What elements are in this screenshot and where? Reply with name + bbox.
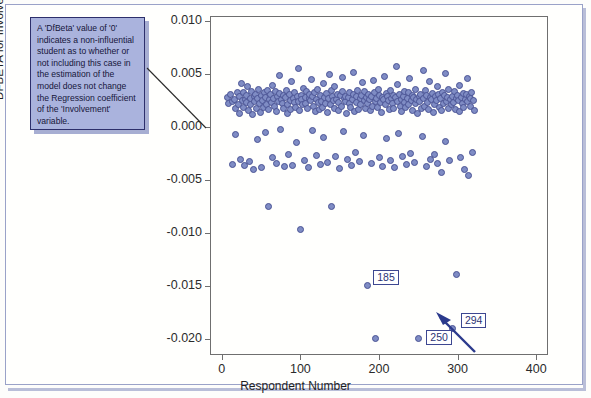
scatter-point[interactable]	[320, 80, 327, 87]
scatter-point[interactable]	[254, 136, 261, 143]
scatter-point[interactable]	[273, 160, 280, 167]
scatter-point[interactable]	[394, 81, 401, 88]
scatter-point[interactable]	[281, 163, 288, 170]
scatter-point[interactable]	[265, 203, 272, 210]
x-axis-tick	[300, 355, 301, 360]
scatter-point[interactable]	[262, 129, 269, 136]
scatter-point[interactable]	[356, 158, 363, 165]
scatter-point[interactable]	[393, 63, 400, 70]
scatter-point[interactable]	[324, 109, 331, 116]
scatter-point[interactable]	[368, 160, 375, 167]
scatter-point[interactable]	[407, 150, 414, 157]
scatter-point[interactable]	[383, 135, 390, 142]
scatter-point[interactable]	[403, 161, 410, 168]
scatter-point[interactable]	[434, 160, 441, 167]
x-axis-tick-label: 100	[290, 362, 311, 376]
x-axis-title: Respondent Number	[0, 379, 591, 393]
scatter-point[interactable]	[348, 162, 355, 169]
scatter-point[interactable]	[465, 172, 472, 179]
scatter-point[interactable]	[471, 107, 478, 114]
scatter-point[interactable]	[250, 166, 257, 173]
scatter-point[interactable]	[381, 73, 388, 80]
scatter-point[interactable]	[340, 128, 347, 135]
scatter-point[interactable]	[419, 133, 426, 140]
scatter-point[interactable]	[328, 203, 335, 210]
scatter-plot-area[interactable]	[210, 16, 548, 355]
scatter-point[interactable]	[232, 131, 239, 138]
scatter-point[interactable]	[379, 163, 386, 170]
y-axis-tick-label: -0.010	[2, 225, 202, 239]
scatter-point[interactable]	[313, 152, 320, 159]
scatter-point[interactable]	[406, 75, 413, 82]
scatter-point[interactable]	[431, 151, 438, 158]
scatter-point[interactable]	[229, 161, 236, 168]
scatter-point[interactable]	[446, 157, 453, 164]
scatter-point[interactable]	[339, 74, 346, 81]
scatter-point[interactable]	[276, 72, 283, 79]
scatter-point[interactable]	[249, 111, 256, 118]
scatter-point[interactable]	[372, 335, 379, 342]
scatter-point[interactable]	[442, 138, 449, 145]
scatter-point[interactable]	[285, 151, 292, 158]
scatter-point[interactable]	[399, 153, 406, 160]
scatter-point[interactable]	[391, 164, 398, 171]
scatter-point[interactable]	[378, 109, 385, 116]
y-axis-tick-label: -0.015	[2, 278, 202, 292]
annotation-box: A 'DfBeta' value of '0' indicates a non-…	[30, 17, 145, 130]
scatter-point[interactable]	[426, 78, 433, 85]
scatter-point[interactable]	[289, 162, 296, 169]
scatter-point[interactable]	[464, 75, 471, 82]
data-point-label-250: 250	[426, 330, 452, 345]
scatter-point[interactable]	[332, 153, 339, 160]
scatter-point[interactable]	[364, 282, 371, 289]
scatter-point[interactable]	[438, 169, 445, 176]
scatter-point[interactable]	[370, 77, 377, 84]
scatter-point[interactable]	[360, 132, 367, 139]
scatter-point[interactable]	[258, 164, 265, 171]
scatter-point[interactable]	[457, 154, 464, 161]
x-axis-tick	[379, 355, 380, 360]
scatter-point[interactable]	[326, 71, 333, 78]
scatter-point[interactable]	[336, 165, 343, 172]
scatter-point[interactable]	[305, 164, 312, 171]
scatter-point[interactable]	[411, 159, 418, 166]
scatter-point[interactable]	[317, 161, 324, 168]
x-axis-tick	[458, 355, 459, 360]
scatter-point[interactable]	[376, 154, 383, 161]
scatter-point[interactable]	[420, 67, 427, 74]
scatter-point[interactable]	[430, 109, 437, 116]
scatter-point[interactable]	[423, 163, 430, 170]
screenshot-page: -0.020-0.015-0.010-0.0050.0000.0050.0100…	[0, 0, 591, 398]
scatter-point[interactable]	[277, 126, 284, 133]
scatter-point[interactable]	[331, 83, 338, 90]
scatter-point[interactable]	[308, 76, 315, 83]
scatter-point[interactable]	[395, 130, 402, 137]
scatter-point[interactable]	[273, 108, 280, 115]
scatter-point[interactable]	[246, 158, 253, 165]
scatter-point[interactable]	[359, 79, 366, 86]
scatter-point[interactable]	[469, 149, 476, 156]
scatter-point[interactable]	[352, 149, 359, 156]
scatter-point[interactable]	[295, 65, 302, 72]
scatter-point[interactable]	[343, 110, 350, 117]
scatter-point[interactable]	[442, 70, 449, 77]
scatter-point[interactable]	[415, 335, 422, 342]
scatter-point[interactable]	[324, 159, 331, 166]
scatter-point[interactable]	[309, 127, 316, 134]
scatter-point[interactable]	[468, 89, 475, 96]
scatter-point[interactable]	[456, 82, 463, 89]
scatter-point[interactable]	[453, 271, 460, 278]
x-axis-tick-label: 200	[369, 362, 390, 376]
scatter-point[interactable]	[320, 134, 327, 141]
scatter-point[interactable]	[387, 157, 394, 164]
scatter-point[interactable]	[297, 226, 304, 233]
scatter-point[interactable]	[350, 69, 357, 76]
scatter-point[interactable]	[236, 110, 243, 117]
scatter-point[interactable]	[470, 97, 477, 104]
scatter-point[interactable]	[288, 78, 295, 85]
scatter-point[interactable]	[438, 107, 445, 114]
scatter-point[interactable]	[293, 139, 300, 146]
outer-border-shadow-right	[583, 8, 586, 390]
scatter-point[interactable]	[301, 157, 308, 164]
x-axis-tick	[536, 355, 537, 360]
